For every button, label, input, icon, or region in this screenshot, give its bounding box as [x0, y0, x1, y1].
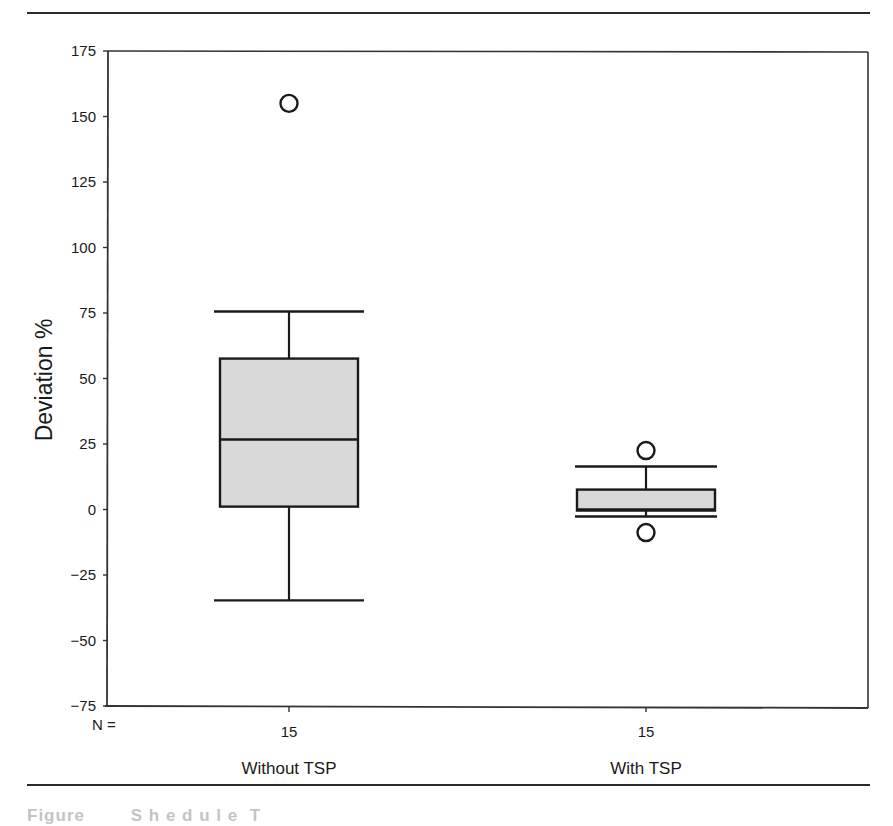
figure-caption: Figure S h e d u l e T [27, 806, 261, 826]
x-axis [105, 706, 868, 708]
y-axis-label: Deviation % [31, 319, 57, 442]
x-axis-categories: 15Without TSP15With TSP [241, 707, 681, 778]
outlier-marker [638, 442, 655, 459]
category-label: Without TSP [241, 759, 336, 778]
category-label: With TSP [610, 759, 681, 778]
boxes [214, 95, 717, 601]
y-tick-label: 50 [79, 370, 96, 387]
outlier-marker [638, 524, 655, 541]
outlier-marker [281, 95, 298, 112]
y-tick-label: 25 [79, 435, 96, 452]
y-tick-label: −75 [71, 697, 96, 714]
y-tick-label: −50 [71, 632, 96, 649]
n-count: 15 [281, 723, 298, 740]
iqr-box [577, 490, 715, 511]
y-tick-label: 100 [71, 239, 96, 256]
box-1 [575, 442, 717, 541]
iqr-box [220, 359, 358, 507]
box-0 [214, 95, 364, 601]
caption-text: Figure S h e d u l e T [27, 806, 261, 825]
y-tick-label: 150 [71, 108, 96, 125]
box-plot: 1751501251007550250−25−50−75 15Without T… [0, 0, 893, 800]
bottom-rule [27, 784, 870, 786]
y-tick-label: 175 [71, 42, 96, 59]
n-label: N = [92, 716, 116, 733]
y-tick-label: 75 [79, 304, 96, 321]
n-count: 15 [638, 723, 655, 740]
y-tick-label: 125 [71, 173, 96, 190]
y-tick-label: 0 [88, 501, 96, 518]
y-axis-ticks: 1751501251007550250−25−50−75 [71, 42, 108, 714]
y-tick-label: −25 [71, 566, 96, 583]
